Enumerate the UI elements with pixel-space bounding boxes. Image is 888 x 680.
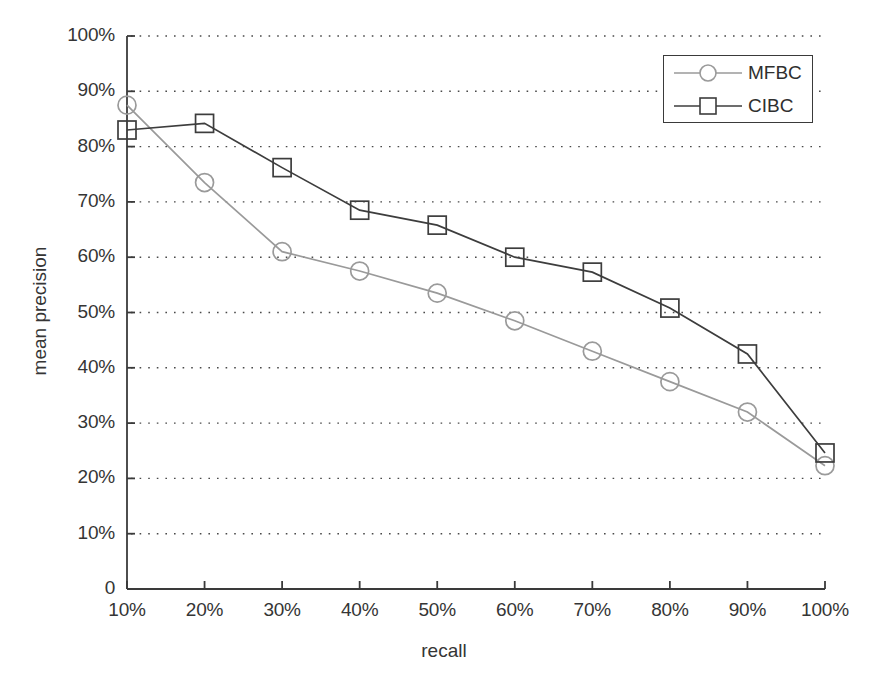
legend-label-mfbc: MFBC xyxy=(748,62,802,84)
y-tick-label: 40% xyxy=(5,356,115,378)
data-point-marker xyxy=(738,403,756,421)
data-point-marker xyxy=(506,312,524,330)
y-axis-title: mean precision xyxy=(29,191,51,431)
data-point-marker xyxy=(428,284,446,302)
x-tick-label: 40% xyxy=(320,599,400,621)
y-tick-label: 30% xyxy=(5,411,115,433)
data-point-marker xyxy=(351,262,369,280)
data-point-marker xyxy=(506,248,524,266)
series-cibc xyxy=(118,114,834,462)
y-tick-label: 100% xyxy=(5,24,115,46)
legend-entry-mfbc[interactable]: MFBC xyxy=(664,56,814,90)
x-tick-label: 90% xyxy=(707,599,787,621)
y-tick-label: 10% xyxy=(5,522,115,544)
square-marker-icon xyxy=(672,89,744,123)
y-tick-label: 0 xyxy=(5,577,115,599)
x-tick-label: 100% xyxy=(785,599,865,621)
x-tick-label: 70% xyxy=(552,599,632,621)
y-tick-label: 50% xyxy=(5,301,115,323)
x-tick-label: 20% xyxy=(165,599,245,621)
circle-marker-icon xyxy=(672,56,744,90)
data-point-marker xyxy=(196,114,214,132)
data-point-marker xyxy=(583,342,601,360)
data-point-marker xyxy=(196,174,214,192)
x-tick-label: 30% xyxy=(242,599,322,621)
x-axis-title: recall xyxy=(0,640,888,662)
series-mfbc xyxy=(118,96,834,475)
data-point-marker xyxy=(661,373,679,391)
y-tick-label: 90% xyxy=(5,79,115,101)
legend-entry-cibc[interactable]: CIBC xyxy=(664,89,814,123)
data-point-marker xyxy=(428,216,446,234)
series-line xyxy=(127,123,825,453)
data-point-marker xyxy=(118,96,136,114)
data-point-marker xyxy=(118,121,136,139)
data-point-marker xyxy=(273,243,291,261)
legend-label-cibc: CIBC xyxy=(748,95,793,117)
y-tick-label: 60% xyxy=(5,245,115,267)
y-tick-label: 20% xyxy=(5,466,115,488)
x-tick-label: 10% xyxy=(87,599,167,621)
y-tick-label: 80% xyxy=(5,135,115,157)
chart-figure: 010%20%30%40%50%60%70%80%90%100%10%20%30… xyxy=(0,0,888,680)
x-tick-label: 60% xyxy=(475,599,555,621)
x-tick-label: 80% xyxy=(630,599,710,621)
data-point-marker xyxy=(583,263,601,281)
data-point-marker xyxy=(816,444,834,462)
x-tick-label: 50% xyxy=(397,599,477,621)
x-axis-ticks xyxy=(127,581,825,589)
data-point-marker xyxy=(661,299,679,317)
data-point-marker xyxy=(738,345,756,363)
data-point-marker xyxy=(351,201,369,219)
series-line xyxy=(127,105,825,466)
y-tick-label: 70% xyxy=(5,190,115,212)
chart-legend[interactable]: MFBC CIBC xyxy=(663,55,813,123)
data-series-layer xyxy=(118,96,834,475)
data-point-marker xyxy=(273,159,291,177)
